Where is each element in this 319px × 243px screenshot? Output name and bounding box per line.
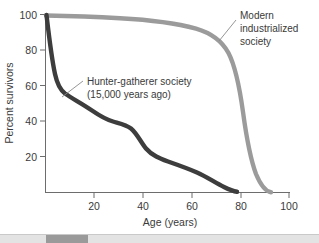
x-tick-label-60: 60 (186, 200, 198, 212)
horizontal-scroll-thumb[interactable] (46, 235, 88, 243)
series-hunter-gatherer (47, 15, 238, 192)
y-tick-labels: 100 80 60 40 20 (19, 9, 37, 163)
y-tick-label-60: 60 (25, 80, 37, 92)
x-tick-label-80: 80 (235, 200, 247, 212)
y-axis-title: Percent survivors (3, 62, 15, 143)
y-tick-label-20: 20 (25, 151, 37, 163)
y-tick-label-40: 40 (25, 115, 37, 127)
y-tick-label-80: 80 (25, 44, 37, 56)
y-tick-label-100: 100 (19, 9, 37, 21)
annotation-modern-line2: industrialized (240, 23, 298, 34)
survivorship-chart: 100 80 60 40 20 20 40 60 80 100 Age (yea… (0, 0, 319, 230)
annotation-modern-line3: society (240, 36, 271, 47)
annotation-modern-line1: Modern (240, 10, 274, 21)
horizontal-scrollbar[interactable] (0, 234, 319, 243)
annotation-modern-industrialized: Modern industrialized society (219, 10, 298, 47)
leader-line-modern (219, 20, 236, 41)
x-tick-label-100: 100 (280, 200, 298, 212)
leader-line-hunter (62, 81, 83, 97)
x-tick-label-40: 40 (137, 200, 149, 212)
y-tick-marks (40, 15, 45, 157)
annotation-hunter-gatherer: Hunter-gatherer society (15,000 years ag… (62, 76, 192, 100)
x-tick-labels: 20 40 60 80 100 (88, 200, 298, 212)
annotation-hunter-line1: Hunter-gatherer society (87, 76, 192, 87)
x-tick-label-20: 20 (88, 200, 100, 212)
annotation-hunter-line2: (15,000 years ago) (87, 89, 171, 100)
x-axis-title: Age (years) (143, 216, 197, 228)
